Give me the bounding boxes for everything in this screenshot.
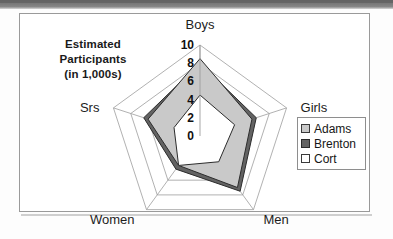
radial-tick-6: 6 [174, 74, 194, 88]
chart-title-line-1: Estimated [33, 37, 153, 52]
legend-label-cort: Cort [314, 152, 337, 166]
scan-artifact-band [0, 0, 393, 9]
axis-label-srs: Srs [19, 100, 99, 115]
legend-item-adams[interactable]: Adams [301, 121, 361, 136]
axis-label-women: Women [55, 212, 135, 227]
axis-label-men: Men [263, 212, 288, 227]
radial-tick-8: 8 [174, 56, 194, 70]
radial-tick-0: 0 [174, 129, 194, 143]
radial-tick-2: 2 [174, 111, 194, 125]
chart-legend: Adams Brenton Cort [297, 117, 366, 170]
legend-swatch-brenton [301, 139, 310, 148]
chart-title-line-3: (in 1,000s) [33, 67, 153, 82]
radial-tick-4: 4 [174, 93, 194, 107]
chart-title-line-2: Participants [33, 52, 153, 67]
legend-swatch-adams [301, 124, 310, 133]
legend-label-adams: Adams [314, 122, 351, 136]
chart-title: Estimated Participants (in 1,000s) [33, 37, 153, 82]
legend-item-cort[interactable]: Cort [301, 151, 361, 166]
axis-label-girls: Girls [301, 100, 328, 115]
radial-tick-10: 10 [174, 38, 194, 52]
legend-item-brenton[interactable]: Brenton [301, 136, 361, 151]
legend-swatch-cort [301, 154, 310, 163]
chart-page: Estimated Participants (in 1,000s) Boys … [0, 9, 393, 239]
axis-label-boys: Boys [160, 17, 240, 32]
legend-label-brenton: Brenton [314, 137, 356, 151]
